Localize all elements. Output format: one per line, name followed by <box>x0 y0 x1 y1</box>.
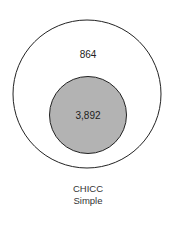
caption: CHICC Simple <box>58 183 118 207</box>
caption-line-1: CHICC <box>58 183 118 195</box>
outer-count-label: 864 <box>58 49 118 60</box>
caption-line-2: Simple <box>58 195 118 207</box>
inner-count-label: 3,892 <box>58 110 118 121</box>
